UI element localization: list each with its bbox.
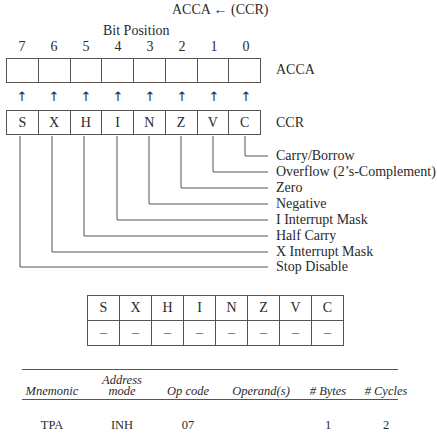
flag-desc-x-interrupt: X Interrupt Mask xyxy=(276,244,373,260)
flag-desc-negative: Negative xyxy=(276,196,327,212)
flag-header: N xyxy=(216,296,248,321)
flag-value: – xyxy=(216,321,248,346)
header-op-code: Op code xyxy=(158,384,218,398)
flag-header: I xyxy=(184,296,216,321)
flag-header: V xyxy=(280,296,312,321)
flags-effect-table: S X H I N Z V C – – – – – – – – xyxy=(87,295,344,346)
flag-desc-zero: Zero xyxy=(276,180,302,196)
flag-value: – xyxy=(88,321,120,346)
flag-value: – xyxy=(280,321,312,346)
header-cycles: # Cycles xyxy=(358,384,414,398)
flag-desc-overflow: Overflow (2’s-Complement) xyxy=(276,164,436,180)
flag-header: S xyxy=(88,296,120,321)
cell-cycles: 2 xyxy=(358,418,414,433)
flag-value: – xyxy=(248,321,280,346)
flag-value: – xyxy=(312,321,344,346)
flag-desc-stop-disable: Stop Disable xyxy=(276,259,348,275)
header-operands: Operand(s) xyxy=(226,384,296,398)
flags-header-row: S X H I N Z V C xyxy=(88,296,344,321)
flag-header: C xyxy=(312,296,344,321)
header-bytes: # Bytes xyxy=(300,384,356,398)
cell-bytes: 1 xyxy=(300,418,356,433)
cell-op-code: 07 xyxy=(158,418,218,433)
flag-value: – xyxy=(152,321,184,346)
flag-header: Z xyxy=(248,296,280,321)
flag-desc-i-interrupt: I Interrupt Mask xyxy=(276,212,368,228)
flag-value: – xyxy=(184,321,216,346)
table-header-rule xyxy=(22,399,398,400)
cell-address-mode: INH xyxy=(92,418,152,433)
flag-desc-half-carry: Half Carry xyxy=(276,228,336,244)
flag-value: – xyxy=(120,321,152,346)
header-address-line2: mode xyxy=(92,384,152,398)
header-mnemonic: Mnemonic xyxy=(22,384,82,398)
flags-value-row: – – – – – – – – xyxy=(88,321,344,346)
flag-header: H xyxy=(152,296,184,321)
cell-mnemonic: TPA xyxy=(22,418,82,433)
flag-header: X xyxy=(120,296,152,321)
table-top-rule xyxy=(22,369,398,370)
flag-desc-carry: Carry/Borrow xyxy=(276,148,355,164)
